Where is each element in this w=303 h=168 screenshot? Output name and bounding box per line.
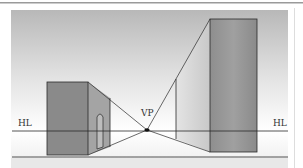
left-building-front: [47, 82, 88, 155]
diagram-svg: HL HL VP: [0, 0, 303, 168]
arched-doorway: [97, 114, 103, 149]
top-border: [0, 2, 303, 4]
right-building-front: [210, 19, 257, 152]
right-border: [294, 8, 295, 168]
horizon-label-left: HL: [18, 118, 32, 128]
foreground-strip: [11, 158, 288, 168]
vanishing-point-label: VP: [140, 108, 154, 118]
horizon-label-right: HL: [273, 118, 287, 128]
perspective-diagram: HL HL VP: [0, 0, 303, 168]
vanishing-point-dot: [144, 128, 149, 132]
